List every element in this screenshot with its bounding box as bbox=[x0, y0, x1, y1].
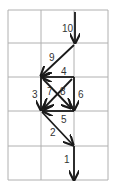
arrow-line bbox=[41, 45, 74, 76]
arrow-10: 10 bbox=[62, 12, 75, 43]
arrow-9: 9 bbox=[41, 45, 74, 76]
arrow-line bbox=[42, 112, 73, 145]
arrow-2: 2 bbox=[42, 112, 73, 145]
arrows: 10943678521 bbox=[32, 12, 84, 180]
arrow-label: 4 bbox=[61, 66, 67, 77]
arrow-1: 1 bbox=[64, 146, 74, 180]
arrow-label: 8 bbox=[60, 86, 66, 97]
route-diagram: 10943678521 bbox=[0, 0, 115, 191]
arrow-6: 6 bbox=[74, 77, 84, 110]
arrow-3: 3 bbox=[32, 77, 41, 110]
arrow-label: 5 bbox=[61, 114, 67, 125]
arrow-label: 6 bbox=[78, 89, 84, 100]
arrow-label: 9 bbox=[49, 52, 55, 63]
arrow-label: 3 bbox=[32, 89, 38, 100]
arrow-label: 2 bbox=[50, 127, 56, 138]
arrow-label: 10 bbox=[62, 23, 74, 34]
arrow-label: 1 bbox=[64, 154, 70, 165]
